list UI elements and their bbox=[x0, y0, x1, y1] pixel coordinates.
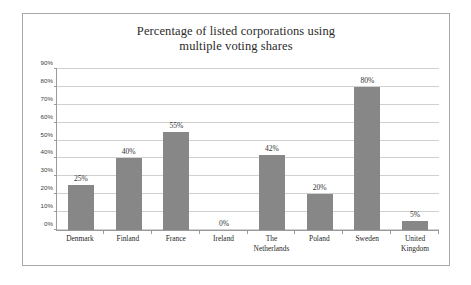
chart-title-line-1: Percentage of listed corporations using bbox=[23, 24, 449, 39]
bar-slot: 0% bbox=[200, 69, 248, 230]
x-axis-category-label-line: The bbox=[248, 234, 296, 244]
x-axis-category-label: Poland bbox=[295, 234, 343, 253]
x-axis-category-label: Ireland bbox=[200, 234, 248, 253]
bar-slot: 80% bbox=[344, 69, 392, 230]
bars-layer: 25%40%55%0%42%20%80%5% bbox=[57, 69, 439, 230]
x-axis-category-label-line: Kingdom bbox=[391, 244, 439, 254]
y-axis-tick-label: 70% bbox=[41, 94, 53, 101]
x-axis-category-label: Finland bbox=[104, 234, 152, 253]
chart-title: Percentage of listed corporations using … bbox=[23, 24, 449, 54]
y-axis-tick-label: 10% bbox=[41, 202, 53, 209]
bar-slot: 42% bbox=[248, 69, 296, 230]
bar-value-label: 0% bbox=[219, 219, 229, 228]
bar-slot: 20% bbox=[296, 69, 344, 230]
x-axis-category-label-line: Ireland bbox=[200, 234, 248, 244]
y-axis-tick-label: 80% bbox=[41, 76, 53, 83]
chart-container: Percentage of listed corporations using … bbox=[22, 13, 450, 266]
x-axis-labels: DenmarkFinlandFranceIrelandTheNetherland… bbox=[56, 234, 439, 253]
x-axis-category-label-line: France bbox=[152, 234, 200, 244]
bar-slot: 25% bbox=[57, 69, 105, 230]
bar[interactable] bbox=[307, 194, 333, 230]
bar-value-label: 55% bbox=[169, 121, 183, 130]
y-axis-tick-label: 50% bbox=[41, 130, 53, 137]
bar-slot: 5% bbox=[391, 69, 439, 230]
x-axis-category-label: France bbox=[152, 234, 200, 253]
x-axis-category-label: TheNetherlands bbox=[248, 234, 296, 253]
bar[interactable] bbox=[402, 221, 428, 230]
x-axis-category-label-line: Netherlands bbox=[248, 244, 296, 254]
bar-slot: 55% bbox=[153, 69, 201, 230]
bar-value-label: 25% bbox=[74, 174, 88, 183]
y-axis-tick-label: 20% bbox=[41, 184, 53, 191]
bar[interactable] bbox=[259, 155, 285, 230]
x-axis-category-label-line: Finland bbox=[104, 234, 152, 244]
bar-value-label: 20% bbox=[313, 183, 327, 192]
y-axis-tick-label: 30% bbox=[41, 166, 53, 173]
y-axis-tick-label: 0% bbox=[44, 220, 53, 227]
bar-value-label: 42% bbox=[265, 144, 279, 153]
x-axis-category-label: UnitedKingdom bbox=[391, 234, 439, 253]
x-axis-category-label-line: United bbox=[391, 234, 439, 244]
bar[interactable] bbox=[354, 87, 380, 230]
x-axis-category-label-line: Sweden bbox=[343, 234, 391, 244]
bar-value-label: 5% bbox=[410, 210, 420, 219]
plot-area: 0%10%20%30%40%50%60%70%80%90% 25%40%55%0… bbox=[56, 69, 439, 231]
x-axis-category-label: Denmark bbox=[56, 234, 104, 253]
bar[interactable] bbox=[116, 158, 142, 230]
bar-value-label: 80% bbox=[360, 76, 374, 85]
bar[interactable] bbox=[68, 185, 94, 230]
bar-value-label: 40% bbox=[122, 147, 136, 156]
x-axis-category-label-line: Poland bbox=[295, 234, 343, 244]
plot-wrapper: 0%10%20%30%40%50%60%70%80%90% 25%40%55%0… bbox=[56, 69, 439, 231]
bar-slot: 40% bbox=[105, 69, 153, 230]
x-axis-category-label-line: Denmark bbox=[56, 234, 104, 244]
chart-title-line-2: multiple voting shares bbox=[23, 39, 449, 54]
x-axis-category-label: Sweden bbox=[343, 234, 391, 253]
y-axis-tick-label: 90% bbox=[41, 59, 53, 66]
bar[interactable] bbox=[163, 132, 189, 230]
y-axis-tick-label: 60% bbox=[41, 112, 53, 119]
y-axis-tick-label: 40% bbox=[41, 148, 53, 155]
